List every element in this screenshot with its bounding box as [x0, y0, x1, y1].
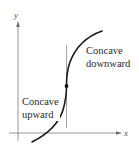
- x-axis-arrow-icon: [116, 131, 122, 135]
- concave-upward-line-1: Concave: [22, 96, 59, 109]
- concavity-diagram: y x Concave upward Concave downward: [0, 0, 139, 149]
- inflection-point: [65, 84, 69, 88]
- concave-downward-label: Concave downward: [85, 45, 131, 70]
- x-axis: [9, 131, 122, 135]
- concave-upward-label: Concave upward: [21, 96, 60, 121]
- concave-upward-line-2: upward: [22, 109, 59, 122]
- x-axis-label: x: [124, 127, 128, 140]
- y-axis-arrow-icon: [16, 21, 20, 27]
- diagram-canvas: [0, 0, 139, 149]
- y-axis-label: y: [14, 9, 18, 22]
- concave-downward-line-1: Concave: [86, 45, 130, 58]
- y-axis: [16, 21, 20, 141]
- concave-downward-line-2: downward: [86, 58, 130, 71]
